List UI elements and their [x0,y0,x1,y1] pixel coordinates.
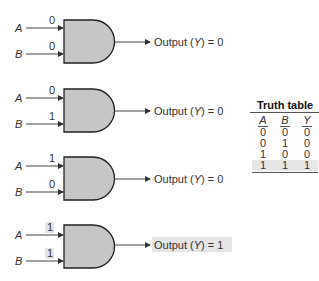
and-gate-body [64,225,115,268]
input-b-label: B [15,186,22,198]
input-b-value: 0 [49,40,55,52]
input-a-value: 0 [49,84,55,96]
and-gate-body [64,157,114,200]
output-label: Output (Y) = 0 [154,105,223,117]
and-gate-4: A 1 B 1 Output (Y) = 1 [14,221,232,268]
input-b-label: B [15,48,22,60]
input-b-label: B [15,118,22,130]
truth-table: Truth table A B Y 0 0 0 0 1 0 1 0 0 [250,99,319,173]
input-a-value: 1 [49,152,55,164]
cell-a: 1 [252,160,274,171]
table-row-highlighted: 1 1 1 [252,160,318,171]
input-b-value: 1 [49,110,55,122]
truth-table-grid: A B Y 0 0 0 0 1 0 1 0 0 1 1 [252,114,318,171]
and-gate-body [64,20,115,63]
output-label: Output (Y) = 0 [154,173,223,185]
input-a-label: A [14,229,22,241]
and-gate-3: A 1 B 0 Output (Y) = 0 [14,152,223,200]
truth-table-bottom-rule [252,172,318,173]
input-a-value: 0 [49,14,55,26]
cell-b: 1 [274,160,296,171]
output-label: Output (Y) = 0 [154,36,223,48]
and-gate-2: A 0 B 1 Output (Y) = 0 [14,84,223,132]
input-a-label: A [14,92,22,104]
input-a-label: A [14,22,22,34]
cell-y: 1 [296,160,318,171]
input-a-value: 1 [47,221,53,233]
input-a-label: A [14,160,22,172]
input-b-value: 1 [47,247,53,259]
output-label: Output (Y) = 1 [154,239,223,251]
and-gate-1: A 0 B 0 Output (Y) = 0 [14,14,223,63]
input-b-label: B [15,255,22,267]
input-b-value: 0 [49,178,55,190]
and-gate-body [64,89,115,132]
truth-table-title: Truth table [250,99,319,113]
